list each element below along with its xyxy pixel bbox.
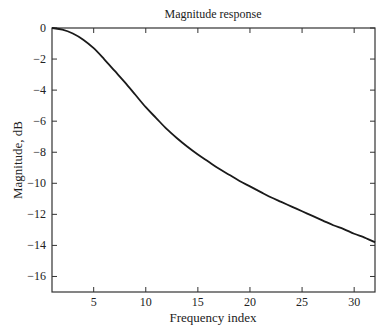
plot-border: [52, 28, 375, 292]
y-tick-label: −2: [33, 52, 46, 66]
plot-frame: [52, 28, 375, 292]
y-axis-ticks: 0−2−4−6−8−10−12−14−16: [27, 21, 375, 283]
y-tick-label: −16: [27, 269, 46, 283]
x-tick-label: 20: [244, 295, 256, 309]
x-tick-label: 30: [348, 295, 360, 309]
y-tick-label: −6: [33, 114, 46, 128]
y-axis-label: Magnitude, dB: [10, 121, 25, 199]
magnitude-response-chart: Magnitude response 51015202530 0−2−4−6−8…: [0, 0, 388, 336]
chart-title: Magnitude response: [165, 7, 262, 21]
magnitude-curve: [52, 28, 375, 242]
x-axis-ticks: 51015202530: [91, 28, 360, 309]
x-tick-label: 5: [91, 295, 97, 309]
y-tick-label: −4: [33, 83, 46, 97]
y-tick-label: −12: [27, 207, 46, 221]
x-tick-label: 10: [140, 295, 152, 309]
x-tick-label: 25: [296, 295, 308, 309]
x-tick-label: 15: [192, 295, 204, 309]
y-tick-label: −14: [27, 238, 46, 252]
y-tick-label: −10: [27, 176, 46, 190]
x-axis-label: Frequency index: [169, 310, 257, 325]
y-tick-label: 0: [40, 21, 46, 35]
y-tick-label: −8: [33, 145, 46, 159]
